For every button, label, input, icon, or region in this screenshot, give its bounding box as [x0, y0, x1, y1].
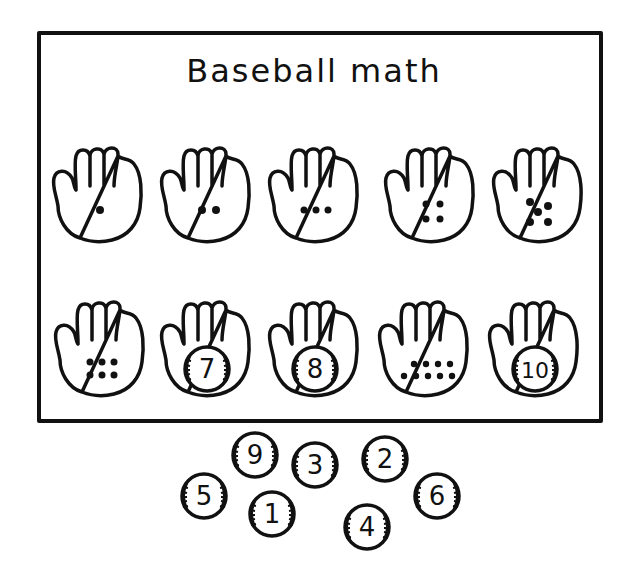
baseball-1[interactable]: 1 — [247, 489, 297, 539]
glove-8-number: 8 — [307, 354, 324, 384]
svg-text:1: 1 — [264, 499, 281, 529]
baseball-6[interactable]: 6 — [412, 471, 462, 521]
glove-10: 10 — [486, 300, 586, 400]
glove-3 — [266, 146, 366, 246]
glove-5 — [490, 146, 590, 246]
glove-8: 8 — [266, 300, 366, 400]
glove-1 — [50, 146, 150, 246]
svg-text:4: 4 — [359, 512, 376, 542]
baseball-9[interactable]: 9 — [230, 430, 280, 480]
baseball-5[interactable]: 5 — [179, 471, 229, 521]
svg-text:5: 5 — [196, 481, 213, 511]
svg-text:2: 2 — [377, 444, 394, 474]
dot — [96, 206, 104, 214]
baseball-4[interactable]: 4 — [342, 502, 392, 552]
glove-4 — [382, 146, 482, 246]
baseball-3[interactable]: 3 — [290, 440, 340, 490]
glove-2 — [158, 146, 258, 246]
svg-text:6: 6 — [429, 481, 446, 511]
svg-text:3: 3 — [307, 450, 324, 480]
worksheet-title: Baseball math — [0, 52, 628, 90]
glove-7: 7 — [158, 300, 258, 400]
glove-10-number: 10 — [521, 358, 549, 383]
glove-9 — [376, 300, 476, 400]
glove-6 — [52, 300, 152, 400]
baseball-2[interactable]: 2 — [360, 434, 410, 484]
glove-7-number: 7 — [199, 354, 216, 384]
svg-text:9: 9 — [247, 440, 264, 470]
